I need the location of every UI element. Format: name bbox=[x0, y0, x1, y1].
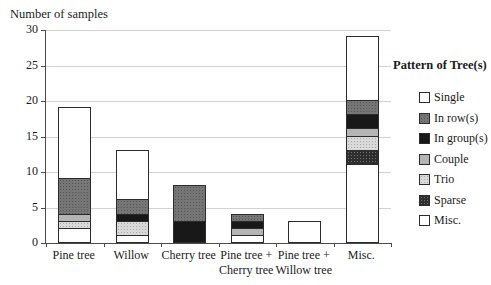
legend-swatch-icon bbox=[419, 92, 430, 103]
stacked-bar-chart: Number of samples 051015202530 Pine tree… bbox=[0, 0, 491, 285]
bar-segment-in_groups bbox=[231, 221, 264, 229]
gridline bbox=[46, 30, 391, 31]
bar-segment-single bbox=[346, 36, 379, 101]
gridline bbox=[46, 208, 391, 209]
bar-segment-trio bbox=[58, 221, 91, 229]
bar-segment-in_rows bbox=[231, 214, 264, 222]
bar-segment-single bbox=[116, 150, 149, 201]
legend-item: Couple bbox=[419, 152, 488, 167]
y-tick-label: 15 bbox=[6, 129, 38, 144]
x-axis-tick bbox=[276, 243, 277, 247]
bar-segment-single bbox=[58, 107, 91, 179]
legend-item-label: In group(s) bbox=[434, 131, 488, 146]
legend-swatch-icon bbox=[419, 174, 430, 185]
legend-swatch-icon bbox=[419, 113, 430, 124]
bar-segment-trio bbox=[116, 221, 149, 236]
y-tick-label: 30 bbox=[6, 22, 38, 37]
bar-segment-in_rows bbox=[346, 100, 379, 115]
legend-item: Single bbox=[419, 90, 488, 105]
y-tick-label: 0 bbox=[6, 235, 38, 250]
x-axis-tick bbox=[46, 243, 47, 247]
y-axis-tick bbox=[41, 30, 46, 31]
y-axis-title: Number of samples bbox=[10, 7, 108, 22]
bar-segment-misc bbox=[288, 221, 321, 243]
x-axis-tick bbox=[334, 243, 335, 247]
legend: SingleIn row(s)In group(s)CoupleTrioSpar… bbox=[419, 90, 488, 234]
y-tick-label: 25 bbox=[6, 58, 38, 73]
bar-segment-in_groups bbox=[346, 114, 379, 129]
x-axis-tick bbox=[104, 243, 105, 247]
x-category-label: Misc. bbox=[327, 248, 395, 263]
legend-swatch-icon bbox=[419, 215, 430, 226]
y-axis-tick bbox=[41, 137, 46, 138]
gridline bbox=[46, 101, 391, 102]
bar-segment-misc bbox=[346, 164, 379, 243]
bar-segment-in_rows bbox=[116, 199, 149, 214]
legend-item-label: Single bbox=[434, 90, 465, 105]
y-tick-label: 20 bbox=[6, 93, 38, 108]
y-tick-label: 10 bbox=[6, 164, 38, 179]
x-axis-tick bbox=[161, 243, 162, 247]
y-axis-tick bbox=[41, 208, 46, 209]
legend-item-label: Couple bbox=[434, 152, 469, 167]
bar-segment-misc bbox=[231, 235, 264, 243]
x-axis-tick bbox=[391, 243, 392, 247]
y-tick-label: 5 bbox=[6, 200, 38, 215]
y-axis-tick bbox=[41, 101, 46, 102]
legend-item: In row(s) bbox=[419, 111, 488, 126]
legend-swatch-icon bbox=[419, 195, 430, 206]
bar-segment-sparse bbox=[346, 150, 379, 165]
bar-segment-couple bbox=[231, 228, 264, 236]
bar-segment-in_rows bbox=[173, 185, 206, 222]
bar-segment-in_rows bbox=[58, 178, 91, 215]
y-axis-tick bbox=[41, 172, 46, 173]
legend-item: Misc. bbox=[419, 213, 488, 228]
legend-item-label: In row(s) bbox=[434, 111, 478, 126]
gridline bbox=[46, 66, 391, 67]
y-axis-tick bbox=[41, 66, 46, 67]
plot-area bbox=[45, 30, 391, 244]
bar-segment-misc bbox=[58, 228, 91, 243]
legend-item-label: Misc. bbox=[434, 213, 461, 228]
legend-item: Sparse bbox=[419, 193, 488, 208]
legend-title: Pattern of Tree(s) bbox=[393, 58, 487, 73]
bar-segment-in_groups bbox=[173, 221, 206, 243]
x-axis-tick bbox=[219, 243, 220, 247]
legend-item: In group(s) bbox=[419, 131, 488, 146]
legend-item: Trio bbox=[419, 172, 488, 187]
bar-segment-couple bbox=[58, 214, 91, 222]
bar-segment-couple bbox=[346, 128, 379, 136]
legend-item-label: Sparse bbox=[434, 193, 466, 208]
legend-swatch-icon bbox=[419, 133, 430, 144]
legend-item-label: Trio bbox=[434, 172, 454, 187]
bar-segment-trio bbox=[346, 136, 379, 151]
bar-segment-in_groups bbox=[116, 214, 149, 222]
legend-swatch-icon bbox=[419, 154, 430, 165]
bar-segment-misc bbox=[116, 235, 149, 243]
gridline bbox=[46, 172, 391, 173]
gridline bbox=[46, 137, 391, 138]
